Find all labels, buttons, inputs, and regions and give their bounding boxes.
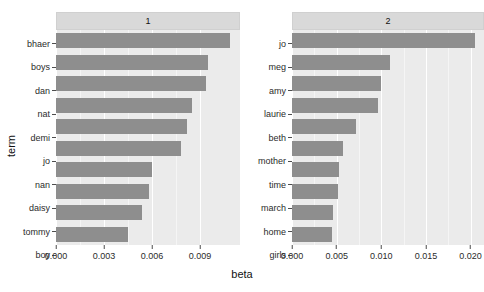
x-tick-label: 0.000: [45, 251, 68, 261]
y-tick-label: mother: [258, 156, 286, 166]
x-tick-mark: [470, 245, 471, 249]
x-tick-0.009: 0.009: [189, 245, 212, 261]
bar-series-panel-2: [292, 30, 484, 245]
y-tick-march: march: [252, 197, 292, 221]
bar-laurie: [292, 98, 378, 113]
bar-meg: [292, 55, 390, 70]
x-tick-label: 0.020: [459, 251, 482, 261]
bar-row: [292, 116, 484, 138]
bar-beth: [292, 119, 356, 134]
y-tick-time: time: [252, 173, 292, 197]
bar-nan: [56, 162, 152, 177]
y-tick-label: bhaer: [27, 39, 50, 49]
bar-row: [56, 116, 240, 138]
y-tick-label: march: [261, 203, 286, 213]
bar-jo: [292, 33, 475, 48]
facet-strip-1: 1: [56, 12, 240, 30]
x-tick-0.000: 0.000: [45, 245, 68, 261]
y-tick-label: home: [263, 227, 286, 237]
facet-panel-1: bhaerboysdannatdemijonandaisytommyboy 1 …: [20, 12, 240, 267]
y-axis-ticklabels-panel-1: bhaerboysdannatdemijonandaisytommyboy: [20, 12, 56, 267]
x-tick-mark: [200, 245, 201, 249]
y-axis-ticklabels-panel-2: jomegamylauriebethmothertimemarchhomegir…: [252, 12, 292, 267]
facet-strip-label-2: 2: [385, 16, 390, 26]
y-tick-nat: nat: [20, 103, 56, 127]
bar-boy: [56, 227, 128, 242]
x-tick-0.003: 0.003: [93, 245, 116, 261]
y-tick-label: demi: [30, 133, 50, 143]
bar-daisy: [56, 184, 149, 199]
bar-row: [292, 224, 484, 246]
x-tick-0.005: 0.005: [325, 245, 348, 261]
x-tick-label: 0.000: [281, 251, 304, 261]
y-tick-amy: amy: [252, 79, 292, 103]
bar-bhaer: [56, 33, 230, 48]
x-tick-mark: [152, 245, 153, 249]
plot-area-panel-1: [56, 30, 240, 245]
y-tick-label: nan: [35, 180, 50, 190]
y-tick-label: amy: [269, 86, 286, 96]
x-tick-0.006: 0.006: [141, 245, 164, 261]
y-tick-label: time: [269, 180, 286, 190]
x-tick-0.010: 0.010: [370, 245, 393, 261]
y-tick-label: jo: [43, 156, 50, 166]
y-tick-nan: nan: [20, 173, 56, 197]
bar-row: [292, 73, 484, 95]
bar-jo: [56, 141, 181, 156]
bar-row: [292, 52, 484, 74]
x-tick-label: 0.003: [93, 251, 116, 261]
facet-strip-label-1: 1: [145, 16, 150, 26]
y-tick-beth: beth: [252, 126, 292, 150]
x-axis-panel-1: 0.0000.0030.0060.009: [56, 245, 240, 267]
y-axis-title: term: [2, 0, 20, 292]
x-tick-label: 0.006: [141, 251, 164, 261]
bar-demi: [56, 119, 187, 134]
bar-row: [56, 224, 240, 246]
y-tick-bhaer: bhaer: [20, 32, 56, 56]
y-tick-daisy: daisy: [20, 197, 56, 221]
bar-row: [292, 138, 484, 160]
bar-home: [292, 205, 333, 220]
y-tick-label: meg: [268, 62, 286, 72]
facetted-bar-chart: term bhaerboysdannatdemijonandaisytommyb…: [0, 0, 484, 292]
bar-row: [292, 30, 484, 52]
x-tick-label: 0.015: [415, 251, 438, 261]
bar-row: [56, 73, 240, 95]
x-axis-title-text: beta: [231, 268, 252, 280]
y-tick-label: jo: [279, 39, 286, 49]
y-tick-label: beth: [268, 133, 286, 143]
bar-dan: [56, 76, 206, 91]
bar-mother: [292, 141, 343, 156]
x-tick-label: 0.009: [189, 251, 212, 261]
bar-row: [56, 52, 240, 74]
y-tick-demi: demi: [20, 126, 56, 150]
y-axis-title-text: term: [5, 135, 17, 157]
bar-nat: [56, 98, 192, 113]
y-tick-label: nat: [37, 109, 50, 119]
x-axis-title: beta: [0, 268, 484, 280]
x-tick-mark: [104, 245, 105, 249]
bar-amy: [292, 76, 381, 91]
bar-march: [292, 184, 338, 199]
bar-row: [56, 30, 240, 52]
x-tick-label: 0.005: [325, 251, 348, 261]
y-tick-boys: boys: [20, 56, 56, 80]
y-tick-dan: dan: [20, 79, 56, 103]
plot-area-panel-2: [292, 30, 484, 245]
y-tick-label: daisy: [29, 203, 50, 213]
bar-tommy: [56, 205, 142, 220]
bar-row: [292, 181, 484, 203]
bar-row: [292, 95, 484, 117]
x-tick-0.015: 0.015: [415, 245, 438, 261]
y-tick-mother: mother: [252, 150, 292, 174]
x-tick-label: 0.010: [370, 251, 393, 261]
bar-row: [56, 202, 240, 224]
bar-series-panel-1: [56, 30, 240, 245]
facet-strip-2: 2: [292, 12, 484, 30]
x-tick-mark: [336, 245, 337, 249]
y-tick-label: laurie: [264, 109, 286, 119]
y-tick-meg: meg: [252, 56, 292, 80]
y-tick-laurie: laurie: [252, 103, 292, 127]
bar-boys: [56, 55, 208, 70]
x-tick-mark: [425, 245, 426, 249]
